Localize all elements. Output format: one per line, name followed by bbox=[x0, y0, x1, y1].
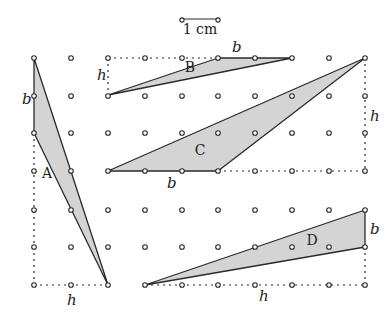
measure-label-b: b bbox=[167, 174, 177, 192]
grid-dot bbox=[69, 283, 74, 288]
scale-bar-endpoint bbox=[216, 18, 220, 22]
grid-dot bbox=[216, 169, 221, 174]
grid-dot bbox=[327, 131, 332, 136]
measure-label-h: h bbox=[67, 291, 77, 309]
grid-dot bbox=[290, 169, 295, 174]
triangle-label-b: B bbox=[185, 59, 195, 75]
grid-dot bbox=[143, 94, 148, 99]
grid-dot bbox=[69, 56, 74, 61]
grid-dot bbox=[327, 245, 332, 250]
grid-dot bbox=[327, 94, 332, 99]
triangle-b bbox=[108, 58, 292, 95]
grid-dot bbox=[180, 131, 185, 136]
grid-dot bbox=[290, 208, 295, 213]
grid-dot bbox=[327, 169, 332, 174]
grid-dot bbox=[253, 169, 258, 174]
grid-dot bbox=[143, 169, 148, 174]
grid-dot bbox=[253, 56, 258, 61]
grid-dot bbox=[290, 283, 295, 288]
measure-label-b: b bbox=[232, 38, 242, 56]
grid-dot bbox=[180, 56, 185, 61]
grid-dot bbox=[290, 94, 295, 99]
grid-dot bbox=[363, 56, 368, 61]
triangle-dot-grid-diagram: 1 cm ABCD bhbbhhbh bbox=[0, 0, 389, 319]
grid-dot bbox=[180, 169, 185, 174]
grid-dot bbox=[69, 131, 74, 136]
grid-dot bbox=[69, 94, 74, 99]
grid-dot bbox=[216, 94, 221, 99]
scale-bar: 1 cm bbox=[180, 18, 220, 37]
grid-dot bbox=[216, 283, 221, 288]
grid-dot bbox=[363, 131, 368, 136]
triangle-label-c: C bbox=[195, 142, 206, 158]
grid-dot bbox=[363, 245, 368, 250]
grid-dot bbox=[106, 245, 111, 250]
grid-dot bbox=[327, 283, 332, 288]
triangle-c bbox=[108, 58, 365, 171]
measure-label-h: h bbox=[259, 287, 269, 305]
grid-dot bbox=[106, 283, 111, 288]
grid-dot bbox=[143, 56, 148, 61]
grid-dot bbox=[69, 245, 74, 250]
grid-dot bbox=[180, 94, 185, 99]
measure-label-h: h bbox=[97, 66, 107, 84]
grid-dot bbox=[327, 208, 332, 213]
grid-dot bbox=[32, 94, 37, 99]
grid-dot bbox=[290, 56, 295, 61]
grid-dot bbox=[143, 131, 148, 136]
grid-dot bbox=[106, 208, 111, 213]
grid-dot bbox=[253, 245, 258, 250]
grid-dot bbox=[106, 169, 111, 174]
grid-dot bbox=[143, 208, 148, 213]
grid-dot bbox=[363, 208, 368, 213]
grid-dot bbox=[253, 208, 258, 213]
triangle-label-d: D bbox=[306, 232, 317, 248]
scale-bar-endpoint bbox=[180, 18, 184, 22]
grid-dot bbox=[216, 245, 221, 250]
grid-dot bbox=[216, 131, 221, 136]
grid-dot bbox=[69, 169, 74, 174]
grid-dot bbox=[216, 208, 221, 213]
grid-dot bbox=[290, 245, 295, 250]
grid-dot bbox=[253, 283, 258, 288]
grid-dot bbox=[363, 283, 368, 288]
measure-label-b: b bbox=[370, 220, 380, 238]
triangle-label-a: A bbox=[41, 165, 53, 181]
grid-dot bbox=[363, 94, 368, 99]
grid-dot bbox=[106, 56, 111, 61]
grid-dot bbox=[32, 245, 37, 250]
grid-dot bbox=[327, 56, 332, 61]
grid-dot bbox=[106, 94, 111, 99]
grid-dot bbox=[253, 131, 258, 136]
measure-label-b: b bbox=[22, 90, 32, 108]
grid-dot bbox=[180, 283, 185, 288]
grid-dot bbox=[290, 131, 295, 136]
grid-dot bbox=[253, 94, 258, 99]
grid-dot bbox=[32, 208, 37, 213]
grid-dot bbox=[180, 208, 185, 213]
grid-dot bbox=[32, 131, 37, 136]
grid-dot bbox=[180, 245, 185, 250]
grid-dot bbox=[32, 56, 37, 61]
grid-dot bbox=[143, 245, 148, 250]
grid-dot bbox=[106, 131, 111, 136]
scale-bar-label: 1 cm bbox=[183, 21, 217, 37]
grid-dot bbox=[32, 169, 37, 174]
grid-dot bbox=[216, 56, 221, 61]
grid-dot bbox=[143, 283, 148, 288]
measure-label-h: h bbox=[370, 107, 380, 125]
grid-dot bbox=[69, 208, 74, 213]
grid-dot bbox=[32, 283, 37, 288]
grid-dot bbox=[363, 169, 368, 174]
